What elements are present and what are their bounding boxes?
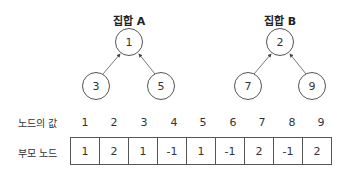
node-label: 7: [245, 80, 252, 93]
node-value: 2: [99, 116, 129, 129]
set-a-title: 집합 A: [113, 12, 145, 28]
parent-array: 1 2 1 -1 1 -1 2 -1 2: [70, 137, 332, 165]
node-5: 5: [147, 72, 175, 100]
node-9: 9: [298, 72, 326, 100]
node-label: 1: [126, 36, 133, 49]
parent-cell: -1: [157, 137, 187, 165]
node-3: 3: [82, 72, 110, 100]
node-value: 3: [129, 116, 159, 129]
node-label: 9: [309, 80, 316, 93]
parent-cell: -1: [215, 137, 245, 165]
node-label: 5: [158, 80, 165, 93]
node-value: 9: [306, 116, 336, 129]
set-b-title: 집합 B: [264, 12, 296, 28]
node-value: 8: [277, 116, 307, 129]
node-value: 1: [70, 116, 100, 129]
node-value: 5: [188, 116, 218, 129]
node-label: 3: [93, 80, 100, 93]
parent-cell: 2: [302, 137, 332, 165]
parent-cell: 1: [128, 137, 158, 165]
node-label: 2: [277, 36, 284, 49]
node-2: 2: [266, 28, 294, 56]
parent-cell: 1: [70, 137, 100, 165]
node-value: 7: [247, 116, 277, 129]
edge-5-to-1: [139, 54, 155, 74]
node-value: 4: [159, 116, 189, 129]
parent-node-row-label: 부모 노드: [18, 145, 57, 160]
node-value: 6: [218, 116, 248, 129]
node-1: 1: [115, 28, 143, 56]
parent-cell: -1: [273, 137, 303, 165]
edge-9-to-2: [290, 54, 306, 74]
node-7: 7: [234, 72, 262, 100]
node-value-row-label: 노드의 값: [18, 115, 57, 130]
parent-cell: 2: [99, 137, 129, 165]
edge-3-to-1: [103, 54, 120, 74]
parent-cell: 1: [186, 137, 216, 165]
edge-7-to-2: [254, 54, 271, 74]
parent-cell: 2: [244, 137, 274, 165]
